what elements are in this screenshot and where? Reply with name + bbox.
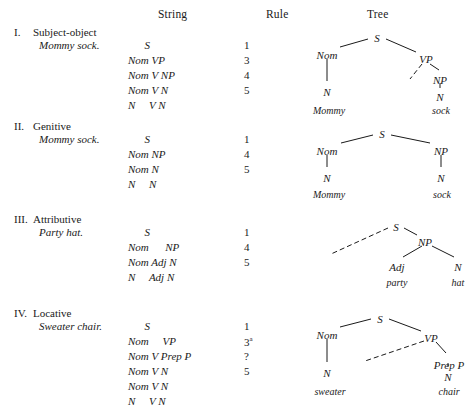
section-example-utterance: Party hat. [39,226,83,238]
parse-tree: SNomVPNPrep PNsweaterchair [300,307,473,402]
tree-node: NP [434,145,448,157]
parse-tree: SNomNPNNMommysock [300,120,473,215]
tree-leaf-word: party [386,277,407,288]
derivation-rule-cell: 5 [244,256,250,268]
section-example-utterance: Mommy sock. [39,39,99,51]
derivation-rule-cell: 1 [244,133,250,145]
tree-node: VP [424,332,437,344]
derivation-string-cell: Nom V NP [128,69,175,81]
tree-edge [340,39,368,47]
derivation-rule-cell: ? [244,350,249,362]
derivation-rule-cell: 4 [244,69,250,81]
derivation-string-cell: Nom VP [128,335,176,347]
derivation-rule-cell: 5 [244,84,250,96]
derivation-rule-cell: 5 [244,365,250,377]
tree-node: NP [418,236,432,248]
derivation-rule-cell: 1 [244,226,250,238]
tree-node: N [444,371,451,383]
tree-node: S [374,32,380,44]
tree-node: S [393,221,399,233]
derivation-string-cell: N V N [128,99,166,111]
section-numeral: I. [14,26,20,38]
derivation-rule-cell: 3a [244,335,253,348]
tree-node: Nom [317,329,338,341]
derivation-string-cell: N N [128,178,156,190]
tree-node: NP [433,74,447,86]
derivation-string-cell: Nom V N [128,380,168,392]
derivation-string-cell: N V N [128,395,166,407]
derivation-rule-cell: 1 [244,39,250,51]
tree-edge-dashed [365,341,424,361]
section-example-utterance: Mommy sock. [39,133,99,145]
tree-edge [389,319,421,331]
section-title: Genitive [33,120,71,132]
tree-edge [404,228,417,235]
derivation-string-cell: S [128,320,150,332]
tree-node: N [436,91,443,103]
tree-edge-dashed [410,64,422,79]
derivation-string-cell: Nom NP [128,148,166,160]
derivation-string-cell: Nom V N [128,84,168,96]
section-title: Locative [33,307,71,319]
derivation-string-cell: Nom Adj N [128,256,177,268]
tree-leaf-word: hat [452,277,465,288]
tree-edge-dashed [331,228,388,254]
derivation-rule-cell: 1 [244,320,250,332]
tree-node: N [454,261,461,273]
tree-node: S [379,128,385,140]
tree-edge [340,319,371,327]
tree-node: Prep P [434,359,464,371]
derivation-string-cell: N Adj N [128,271,174,283]
tree-leaf-word: sock [432,105,450,116]
derivation-string-cell: S [128,133,150,145]
tree-leaf-word: Mommy [313,189,345,200]
column-header-tree: Tree [367,8,388,20]
tree-node: Adj [389,261,404,273]
derivation-rule-cell: 4 [244,241,250,253]
tree-leaf-word: sweater [314,386,345,397]
tree-leaf-word: chair [438,386,459,397]
derivation-string-cell: S [128,226,150,238]
tree-edge [386,39,416,52]
derivation-string-cell: Nom NP [128,241,179,253]
parse-tree: SNomVPNNPNMommysock [300,26,473,121]
derivation-string-cell: S [128,39,150,51]
tree-edges [300,120,473,215]
tree-node: Nom [317,145,338,157]
derivation-string-cell: Nom VP [128,54,165,66]
parse-tree: SNPAdjNpartyhat [300,213,473,308]
tree-node: N [323,172,330,184]
derivation-string-cell: Nom V Prep P [128,350,191,362]
column-header-rule: Rule [266,8,289,20]
tree-node: Nom [317,49,338,61]
derivation-rule-cell: 4 [244,148,250,160]
tree-node: VP [419,53,432,65]
derivation-string-cell: Nom V N [128,365,168,377]
derivation-string-cell: Nom N [128,163,159,175]
section-title: Attributive [33,213,81,225]
section-example-utterance: Sweater chair. [39,320,102,332]
section-numeral: IV. [14,307,27,319]
tree-edge [432,246,454,257]
tree-leaf-word: sock [433,189,451,200]
derivation-rule-cell: 3 [244,54,250,66]
tree-edge [391,135,430,143]
tree-node: N [437,172,444,184]
column-header-string: String [158,8,187,20]
section-numeral: II. [14,120,24,132]
derivation-rule-cell: 5 [244,163,250,175]
section-title: Subject-object [33,26,97,38]
tree-edges [300,213,473,308]
tree-node: S [377,313,383,325]
tree-node: N [323,367,330,379]
tree-leaf-word: Mommy [313,105,345,116]
tree-node: N [323,86,330,98]
section-numeral: III. [14,213,28,225]
tree-edge [341,135,373,143]
rule-footnote-marker: a [250,335,253,343]
